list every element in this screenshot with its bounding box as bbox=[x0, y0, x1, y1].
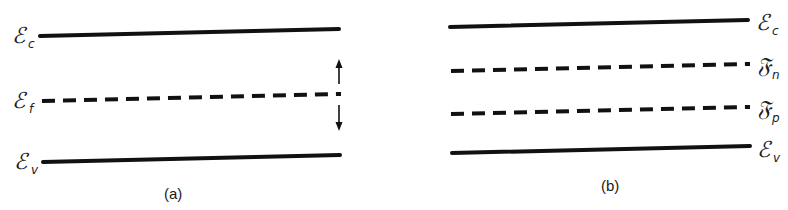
panel-a: ℰ c ℰ f ℰ v (a) bbox=[12, 23, 343, 202]
conduction-band-line-b bbox=[450, 20, 748, 27]
caption-a: (a) bbox=[164, 185, 182, 202]
label-ev-subscript: v bbox=[31, 163, 39, 177]
label-ec-subscript: c bbox=[28, 37, 35, 51]
band-diagram: ℰ c ℰ f ℰ v (a) ℰ c 𝔉 n 𝔉 p ℰ v (b) bbox=[0, 0, 788, 210]
fermi-level-line-a bbox=[42, 94, 341, 101]
valence-band-line-a bbox=[43, 155, 340, 162]
caption-b: (b) bbox=[601, 177, 619, 194]
label-ev-subscript-b: v bbox=[773, 151, 781, 165]
label-fp-subscript: p bbox=[771, 111, 780, 125]
down-arrow-icon bbox=[336, 105, 343, 131]
label-ec-symbol: ℰ bbox=[12, 23, 28, 48]
label-fn-subscript: n bbox=[772, 68, 780, 82]
label-ev-symbol: ℰ bbox=[14, 149, 30, 174]
panel-b: ℰ c 𝔉 n 𝔉 p ℰ v (b) bbox=[450, 10, 781, 194]
label-ef-symbol: ℰ bbox=[12, 88, 28, 113]
up-arrow-icon bbox=[336, 59, 343, 84]
hole-quasi-fermi-line bbox=[451, 107, 750, 114]
conduction-band-line-a bbox=[40, 29, 339, 36]
label-ec-subscript-b: c bbox=[772, 24, 779, 38]
electron-quasi-fermi-line bbox=[451, 64, 750, 71]
label-ev-symbol-b: ℰ bbox=[757, 137, 773, 162]
valence-band-line-b bbox=[452, 146, 750, 153]
label-ef-subscript: f bbox=[29, 102, 35, 116]
label-ec-symbol-b: ℰ bbox=[756, 10, 772, 35]
